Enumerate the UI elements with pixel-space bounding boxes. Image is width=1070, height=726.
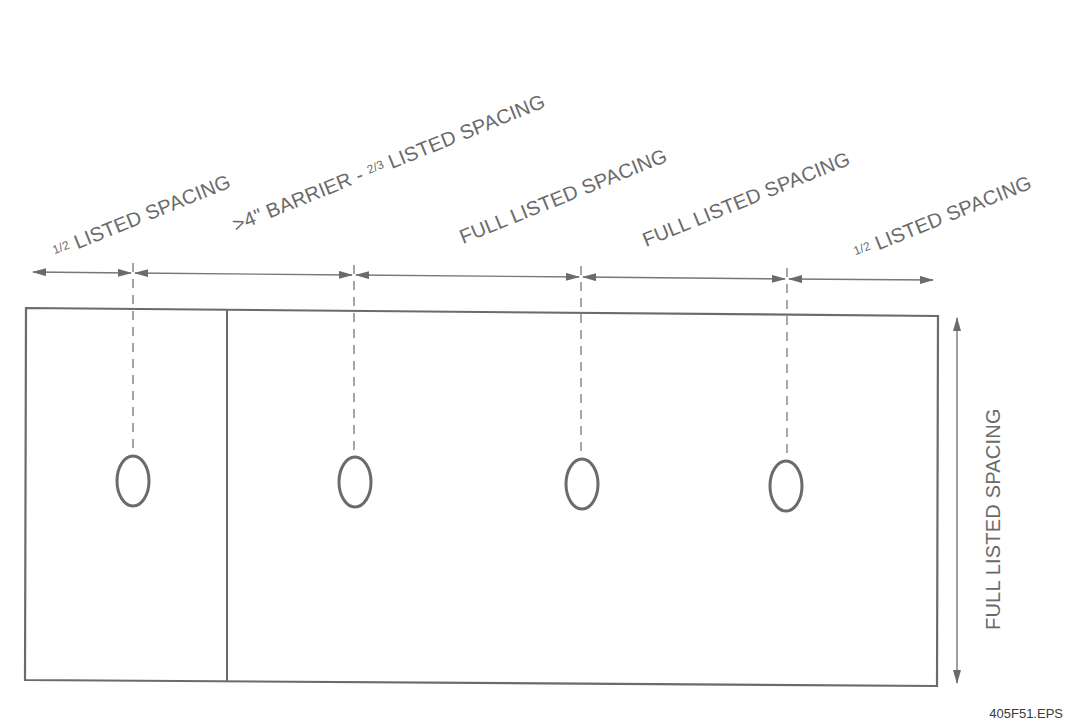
dim-segment-4 [583, 277, 785, 279]
label-vertical-full-spacing: FULL LISTED SPACING [982, 408, 1004, 630]
dim-segment-5 [789, 279, 933, 280]
dim-segment-1 [33, 272, 131, 273]
top-dimension-line [33, 272, 933, 280]
sprinkler-head-2 [339, 457, 371, 507]
sprinkler-spacing-diagram: 1/2 LISTED SPACING >4" BARRIER - 2/3 LIS… [0, 0, 1070, 726]
svg-text:FULL LISTED SPACING: FULL LISTED SPACING [639, 147, 853, 250]
label-full-spacing-1: FULL LISTED SPACING [456, 144, 670, 247]
figure-id-label: 405F51.EPS [989, 706, 1063, 721]
label-full-spacing-2: FULL LISTED SPACING [639, 147, 853, 250]
dim-segment-3 [356, 275, 579, 277]
svg-text:1/2 LISTED SPACING: 1/2 LISTED SPACING [49, 170, 233, 262]
svg-text:FULL LISTED SPACING: FULL LISTED SPACING [982, 408, 1004, 630]
svg-text:FULL LISTED SPACING: FULL LISTED SPACING [456, 144, 670, 247]
sprinkler-head-3 [566, 459, 598, 509]
label-half-spacing-right: 1/2 LISTED SPACING [850, 171, 1034, 263]
sprinkler-heads [117, 456, 802, 511]
sprinkler-centerlines [133, 263, 787, 459]
label-half-spacing-left: 1/2 LISTED SPACING [49, 170, 233, 262]
svg-text:1/2 LISTED SPACING: 1/2 LISTED SPACING [850, 171, 1034, 263]
dim-segment-2 [135, 273, 352, 275]
sprinkler-head-4 [770, 461, 802, 511]
sprinkler-head-1 [117, 456, 149, 506]
